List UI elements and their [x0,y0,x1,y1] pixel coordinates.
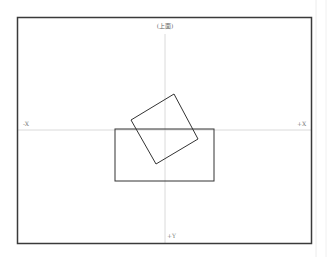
axis-label-bottom: +Y [167,233,176,239]
diagram-svg [0,0,330,257]
axis-label-right: +X [297,121,306,127]
top-view-diagram: (上面) -X +X +Y [0,0,330,257]
axis-label-left: -X [23,121,29,127]
view-title-label: (上面) [157,23,174,29]
tilted-square [131,94,198,164]
